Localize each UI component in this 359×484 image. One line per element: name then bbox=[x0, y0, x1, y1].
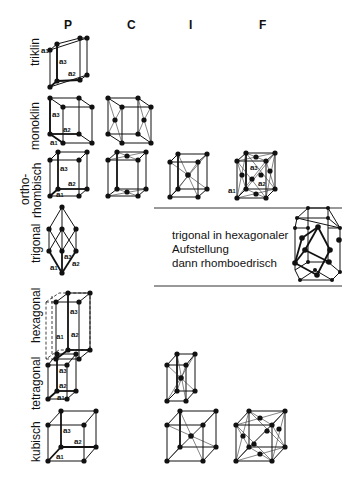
svg-text:a1: a1 bbox=[57, 393, 65, 402]
svg-text:a3: a3 bbox=[52, 110, 60, 119]
triklin-p-cell: a1 a3 a2 bbox=[41, 35, 90, 89]
orthorhombisch-i-cell bbox=[167, 151, 209, 199]
tetragonal-i-cell bbox=[164, 351, 197, 403]
svg-text:a3: a3 bbox=[70, 307, 78, 316]
orthorhombisch-f-cell: a3 a2 a1 bbox=[228, 150, 278, 200]
svg-text:a2: a2 bbox=[63, 125, 71, 134]
svg-text:a2: a2 bbox=[68, 179, 76, 188]
trigonal-hexagonal-note: trigonal in hexagonaler Aufstellung dann… bbox=[172, 228, 288, 270]
svg-text:a1: a1 bbox=[41, 46, 49, 55]
svg-text:a1: a1 bbox=[56, 332, 64, 341]
svg-text:a2: a2 bbox=[59, 381, 67, 390]
svg-text:a2: a2 bbox=[74, 437, 82, 446]
trigonal-p-cell: a3 a1 a2 bbox=[46, 204, 79, 275]
kubisch-i-cell bbox=[164, 408, 218, 463]
monoklin-c-cell bbox=[105, 95, 153, 145]
svg-text:a3: a3 bbox=[64, 252, 72, 261]
orthorhombisch-c-cell bbox=[105, 149, 148, 198]
kubisch-p-cell: a3 a2 a1 bbox=[45, 408, 98, 463]
svg-text:a1: a1 bbox=[50, 138, 58, 147]
note-line-2: Aufstellung bbox=[172, 242, 288, 256]
svg-text:a2: a2 bbox=[68, 69, 76, 78]
svg-text:a1: a1 bbox=[228, 186, 236, 195]
monoklin-p-cell: a3 a2 a1 bbox=[47, 95, 94, 147]
svg-text:a2: a2 bbox=[71, 330, 79, 339]
svg-text:a2: a2 bbox=[258, 179, 266, 188]
svg-text:a1: a1 bbox=[56, 190, 64, 199]
svg-text:a1: a1 bbox=[56, 452, 64, 461]
note-line-1: trigonal in hexagonaler bbox=[172, 228, 288, 242]
svg-text:a3: a3 bbox=[59, 366, 67, 375]
svg-text:a3: a3 bbox=[59, 57, 67, 66]
svg-text:a1: a1 bbox=[50, 263, 58, 272]
svg-text:a3: a3 bbox=[60, 164, 68, 173]
svg-text:a2: a2 bbox=[72, 259, 80, 268]
trigonal-hexagonal-setting-cell bbox=[292, 206, 342, 282]
orthorhombisch-p-cell: a3 a2 a1 bbox=[47, 149, 89, 199]
svg-text:a3: a3 bbox=[63, 426, 71, 435]
note-line-3: dann rhomboedrisch bbox=[172, 256, 288, 270]
svg-text:a3: a3 bbox=[250, 163, 258, 172]
kubisch-f-cell bbox=[233, 408, 287, 463]
hexagonal-p-cell: a3 a2 a1 bbox=[46, 290, 93, 361]
